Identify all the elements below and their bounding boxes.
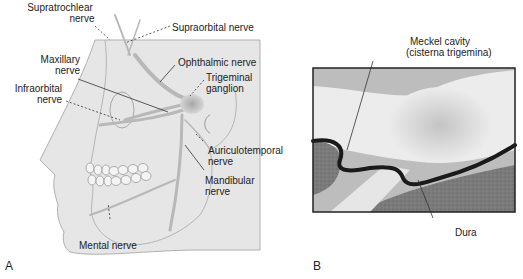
panel-letter-b: B	[313, 259, 321, 273]
label-line: Meckel cavity	[410, 36, 492, 47]
label-meckel-cavity: Meckel cavity (cisterna trigemina)	[410, 36, 492, 58]
label-line: Mandibular	[205, 175, 254, 186]
label-line: nerve	[205, 186, 254, 197]
label-line: nerve	[8, 94, 62, 105]
meckel-cavity-shape	[388, 87, 492, 163]
label-dura: Dura	[455, 227, 477, 238]
label-mandibular-nerve: Mandibular nerve	[205, 175, 254, 197]
label-mental-nerve: Mental nerve	[79, 240, 137, 251]
head-figure	[40, 15, 260, 254]
panel-letter-a: A	[5, 259, 13, 273]
label-line: (cisterna trigemina)	[406, 47, 492, 58]
label-supraorbital-nerve: Supraorbital nerve	[172, 22, 254, 33]
label-infraorbital-nerve: Infraorbital nerve	[8, 83, 62, 105]
label-line: Trigeminal	[206, 72, 252, 83]
label-line: Maxillary	[30, 54, 80, 65]
label-auriculotemporal-nerve: Auriculotemporal nerve	[208, 145, 283, 167]
label-ophthalmic-nerve: Ophthalmic nerve	[178, 57, 256, 68]
label-line: Supratrochlear	[23, 2, 97, 13]
label-supratrochlear-nerve: Supratrochlear nerve	[23, 2, 97, 24]
label-trigeminal-ganglion: Trigeminal ganglion	[206, 72, 252, 94]
label-maxillary-nerve: Maxillary nerve	[30, 54, 80, 76]
label-line: Auriculotemporal	[208, 145, 283, 156]
label-line: nerve	[208, 156, 283, 167]
label-line: ganglion	[206, 83, 252, 94]
label-line: nerve	[23, 13, 97, 24]
label-line: nerve	[30, 65, 80, 76]
label-line: Infraorbital	[8, 83, 62, 94]
meckel-figure	[313, 68, 515, 212]
trigeminal-ganglion-shape	[180, 94, 204, 114]
